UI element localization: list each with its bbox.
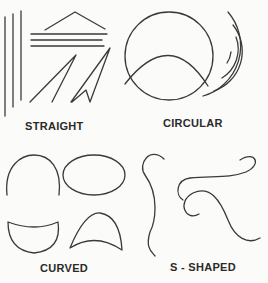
label-curved: CURVED — [40, 262, 88, 274]
label-circular: CIRCULAR — [163, 117, 223, 129]
label-straight: STRAIGHT — [25, 120, 84, 132]
circular-lines-figure — [125, 12, 242, 100]
curved-lines-figure — [7, 155, 125, 253]
straight-lines-figure — [5, 11, 110, 116]
line-types-diagram: STRAIGHT CIRCULAR CURVED S - SHAPED — [0, 0, 268, 283]
s-shaped-lines-figure — [143, 154, 260, 256]
diagram-drawing — [0, 0, 268, 283]
label-s-shaped: S - SHAPED — [170, 261, 236, 273]
